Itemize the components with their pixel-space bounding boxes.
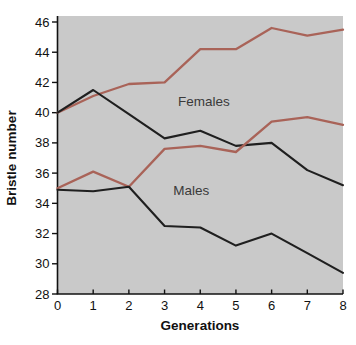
y-tick-label: 30 <box>35 256 49 271</box>
females-series-label: Females <box>178 93 230 108</box>
y-tick-label: 40 <box>35 105 49 120</box>
x-tick-label: 1 <box>90 298 97 313</box>
x-axis-title: Generations <box>161 318 240 333</box>
plot-background <box>58 16 344 294</box>
x-tick-label: 6 <box>268 298 275 313</box>
chart-canvas: 28303234363840424446012345678 <box>0 0 356 345</box>
x-tick-label: 3 <box>161 298 168 313</box>
y-axis-title: Bristle number <box>4 110 19 205</box>
x-tick-label: 7 <box>304 298 311 313</box>
y-tick-label: 36 <box>35 166 49 181</box>
x-tick-label: 2 <box>125 298 132 313</box>
x-tick-label: 4 <box>197 298 204 313</box>
y-tick-label: 42 <box>35 75 49 90</box>
y-tick-label: 46 <box>35 15 49 30</box>
y-tick-label: 38 <box>35 135 49 150</box>
y-tick-label: 34 <box>35 196 49 211</box>
males-series-label: Males <box>173 182 209 197</box>
x-tick-label: 5 <box>232 298 239 313</box>
y-tick-label: 32 <box>35 226 49 241</box>
x-tick-label: 8 <box>339 298 346 313</box>
y-tick-label: 28 <box>35 287 49 302</box>
y-tick-label: 44 <box>35 45 49 60</box>
bristle-number-selection-chart: 28303234363840424446012345678 Bristle nu… <box>0 0 356 345</box>
x-tick-label: 0 <box>54 298 61 313</box>
